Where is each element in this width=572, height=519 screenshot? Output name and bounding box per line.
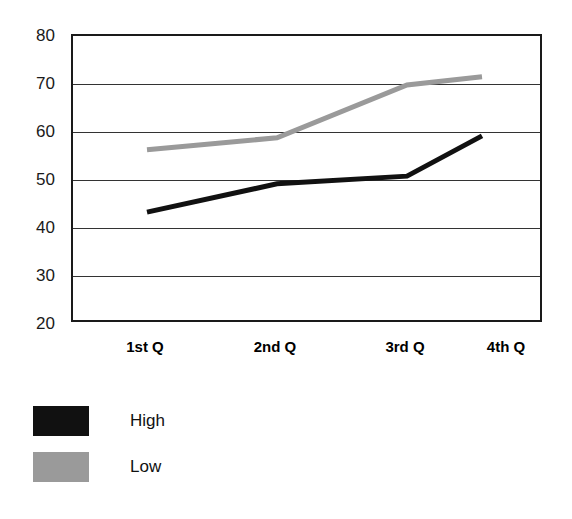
x-tick-label-q2: 2nd Q xyxy=(254,338,297,355)
x-tick-label-q4: 4th Q xyxy=(487,338,525,355)
legend-label-low: Low xyxy=(130,457,161,477)
y-tick-label: 60 xyxy=(36,123,55,140)
chart-legend: High Low xyxy=(33,398,333,490)
legend-entry-low: Low xyxy=(33,444,333,490)
y-tick-label: 70 xyxy=(36,75,55,92)
plot-area xyxy=(71,34,542,322)
legend-swatch-low xyxy=(33,452,89,482)
legend-swatch-high xyxy=(33,406,89,436)
line-chart-figure: 80 70 60 50 40 30 20 1st Q 2nd Q 3rd Q 4… xyxy=(0,0,572,519)
y-tick-label: 20 xyxy=(36,315,55,332)
legend-label-high: High xyxy=(130,411,165,431)
x-axis-tick-labels: 1st Q 2nd Q 3rd Q 4th Q xyxy=(71,338,542,362)
series-line-low xyxy=(147,77,482,150)
legend-entry-high: High xyxy=(33,398,333,444)
y-tick-label: 30 xyxy=(36,267,55,284)
x-tick-label-q1: 1st Q xyxy=(126,338,164,355)
x-tick-label-q3: 3rd Q xyxy=(385,338,424,355)
series-layer xyxy=(73,36,544,324)
y-tick-label: 50 xyxy=(36,171,55,188)
y-tick-label: 40 xyxy=(36,219,55,236)
y-tick-label: 80 xyxy=(36,27,55,44)
